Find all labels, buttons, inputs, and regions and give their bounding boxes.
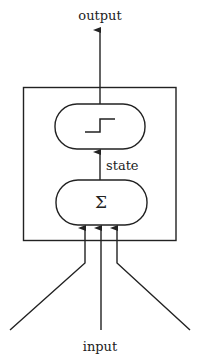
input-arrow-3 <box>117 228 190 330</box>
output-label: output <box>78 8 122 23</box>
input-edges <box>10 228 190 330</box>
input-arrow-1 <box>10 228 85 330</box>
threshold-node <box>55 104 145 149</box>
sum-node: Σ <box>56 180 147 225</box>
neuron-diagram: output state Σ input <box>0 0 197 361</box>
state-label: state <box>106 158 139 173</box>
sigma-icon: Σ <box>95 192 107 212</box>
input-label: input <box>83 339 118 354</box>
